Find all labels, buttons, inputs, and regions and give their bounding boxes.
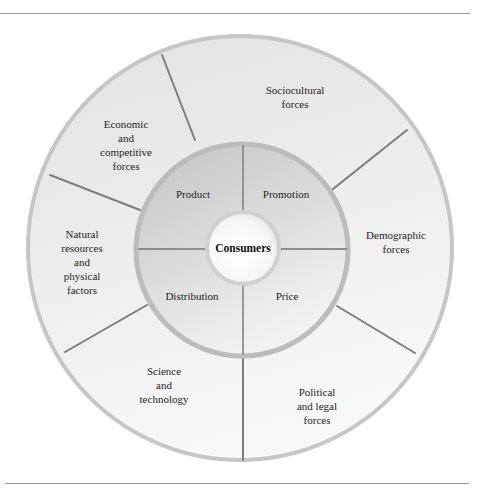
bottom-rule <box>5 483 469 484</box>
mix-label-product: Product <box>176 187 210 201</box>
force-label-science-technology: Science and technology <box>140 364 189 406</box>
force-label-natural-resources: Natural resources and physical factors <box>61 227 103 297</box>
center-label-consumers: Consumers <box>215 241 271 255</box>
mix-label-price: Price <box>276 289 299 303</box>
mix-label-distribution: Distribution <box>165 289 218 303</box>
force-label-political-legal: Political and legal forces <box>297 385 337 427</box>
mix-label-promotion: Promotion <box>263 187 309 201</box>
force-label-demographic: Demographic forces <box>366 228 426 256</box>
force-label-economic-competitive: Economic and competitive forces <box>100 117 152 173</box>
force-label-sociocultural: Sociocultural forces <box>266 83 325 111</box>
